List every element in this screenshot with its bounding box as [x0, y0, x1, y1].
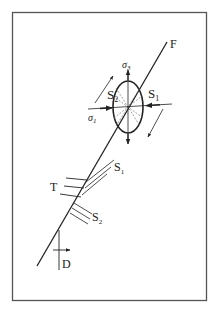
fault-line	[37, 42, 167, 266]
s1-upper-label: S1	[148, 86, 159, 103]
sigma1-label: σ1	[88, 112, 96, 125]
s2-fractures	[70, 203, 92, 224]
sigma3-label: σ3	[122, 59, 131, 72]
diagram-canvas: F σ3 σ1 S2 S1 T S1	[0, 0, 217, 311]
shear-arrow-right	[148, 109, 163, 137]
s1-lower-label: S1	[114, 160, 125, 176]
strain-ellipse-diagram: F σ3 σ1 S2 S1 T S1	[0, 0, 217, 311]
s1-fractures	[82, 160, 114, 195]
d-label: D	[62, 257, 71, 271]
s2-lower-label: S2	[92, 210, 103, 226]
t-label: T	[50, 180, 58, 194]
fault-label: F	[170, 37, 177, 51]
